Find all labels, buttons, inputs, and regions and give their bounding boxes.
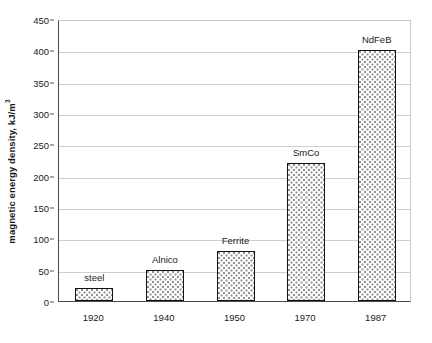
bars-layer: steelAlnicoFerriteSmCoNdFeB	[59, 21, 410, 301]
y-tick-mark	[50, 302, 54, 303]
y-axis-title: magnetic energy density, kJ/m3	[0, 0, 22, 343]
y-tick-mark	[50, 51, 54, 52]
y-tick-label: 250	[33, 140, 49, 151]
y-tick-mark	[50, 145, 54, 146]
x-tick-label: 1987	[365, 312, 386, 323]
y-tick-mark	[50, 82, 54, 83]
bar	[146, 270, 184, 301]
y-tick-label: 350	[33, 77, 49, 88]
bar-label: Ferrite	[222, 235, 249, 246]
y-tick-label: 100	[33, 234, 49, 245]
bar-group: steel	[75, 21, 113, 301]
y-tick-mark	[50, 208, 54, 209]
y-tick-mark	[50, 176, 54, 177]
bar-group: Alnico	[146, 21, 184, 301]
x-tick-label: 1940	[153, 312, 174, 323]
bar	[358, 50, 396, 301]
y-axis-title-text: magnetic energy density, kJ/m3	[6, 99, 17, 243]
bar-group: SmCo	[287, 21, 325, 301]
bar	[287, 163, 325, 301]
bar-label: SmCo	[293, 147, 319, 158]
y-tick-mark	[50, 239, 54, 240]
bar	[217, 251, 255, 301]
y-tick-mark	[50, 114, 54, 115]
x-axis-ticks: 19201940195019701987	[58, 302, 411, 343]
y-tick-label: 400	[33, 46, 49, 57]
bar-chart: magnetic energy density, kJ/m3 050100150…	[0, 0, 432, 343]
y-axis-ticks: 050100150200250300350400450	[22, 0, 54, 343]
y-tick-mark	[50, 20, 54, 21]
y-axis-title-superscript: 3	[4, 99, 11, 103]
y-tick-label: 50	[38, 265, 49, 276]
bar	[75, 288, 113, 301]
y-tick-label: 300	[33, 109, 49, 120]
plot-area: steelAlnicoFerriteSmCoNdFeB	[58, 20, 411, 302]
y-tick-label: 0	[44, 297, 49, 308]
x-tick-label: 1970	[295, 312, 316, 323]
bar-group: Ferrite	[217, 21, 255, 301]
x-tick-label: 1950	[224, 312, 245, 323]
y-tick-label: 150	[33, 203, 49, 214]
y-tick-label: 200	[33, 171, 49, 182]
y-tick-label: 450	[33, 15, 49, 26]
bar-group: NdFeB	[358, 21, 396, 301]
y-tick-mark	[50, 270, 54, 271]
y-axis-title-label: magnetic energy density, kJ/m	[6, 103, 17, 244]
bar-label: steel	[84, 272, 104, 283]
bar-label: NdFeB	[362, 34, 392, 45]
bar-label: Alnico	[152, 254, 178, 265]
x-tick-label: 1920	[83, 312, 104, 323]
